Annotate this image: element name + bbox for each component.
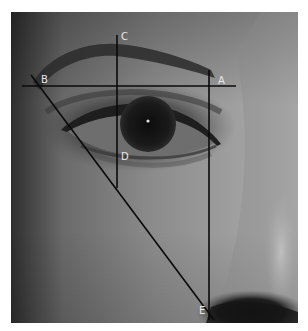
label-c: C — [121, 32, 128, 42]
label-e: E — [199, 306, 205, 316]
label-b: B — [41, 75, 48, 85]
eye-photo-graphic — [11, 12, 298, 323]
label-d: D — [121, 152, 129, 162]
figure-caption-cutoff — [14, 326, 304, 331]
eye-photograph: B A C D E — [11, 12, 298, 323]
label-a: A — [218, 76, 225, 86]
